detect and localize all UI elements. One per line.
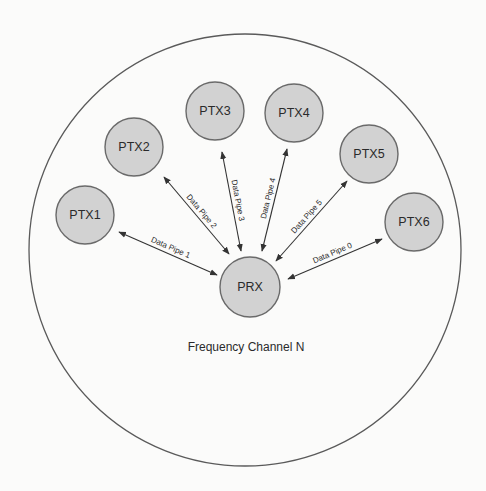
- node-ptx3: PTX3: [186, 82, 244, 140]
- receiver-label: PRX: [237, 280, 263, 294]
- multiceiver-diagram: Data Pipe 1Data Pipe 2Data Pipe 3Data Pi…: [0, 0, 486, 491]
- data-pipe-2: Data Pipe 2: [164, 177, 229, 254]
- bidirectional-arrow-icon: [164, 177, 229, 254]
- nodes: PTX1PTX2PTX3PTX4PTX5PTX6PRX: [56, 82, 443, 317]
- data-pipe-4: Data Pipe 4: [259, 149, 287, 251]
- data-pipe-label: Data Pipe 3: [230, 179, 247, 222]
- node-ptx4: PTX4: [265, 84, 323, 142]
- node-ptx5: PTX5: [340, 125, 398, 183]
- transmitter-label: PTX6: [398, 215, 429, 229]
- data-pipe-label: Data Pipe 0: [311, 240, 353, 265]
- transmitter-label: PTX2: [118, 140, 149, 154]
- frequency-channel-boundary: [29, 34, 461, 466]
- node-prx: PRX: [220, 257, 280, 317]
- data-pipe-label: Data Pipe 5: [289, 198, 324, 236]
- frequency-channel-label: Frequency Channel N: [188, 340, 305, 354]
- node-ptx1: PTX1: [56, 186, 114, 244]
- bidirectional-arrow-icon: [119, 232, 217, 275]
- transmitter-label: PTX3: [199, 104, 230, 118]
- node-ptx6: PTX6: [385, 193, 443, 251]
- data-pipe-1: Data Pipe 1: [119, 232, 217, 275]
- data-pipe-3: Data Pipe 3: [222, 152, 246, 251]
- bidirectional-arrow-icon: [288, 239, 382, 279]
- node-ptx2: PTX2: [105, 118, 163, 176]
- transmitter-label: PTX5: [353, 147, 384, 161]
- transmitter-label: PTX1: [69, 208, 100, 222]
- data-pipe-0: Data Pipe 0: [288, 239, 382, 279]
- transmitter-label: PTX4: [278, 106, 309, 120]
- data-pipe-label: Data Pipe 2: [185, 192, 219, 230]
